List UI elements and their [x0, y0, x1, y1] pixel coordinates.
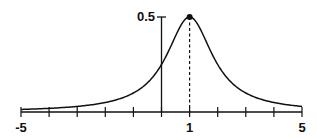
x-tick-label-5: 5 [298, 120, 305, 135]
chart: 0.5 -5 1 5 [0, 0, 317, 140]
peak-point [187, 14, 193, 20]
y-tick-label-0.5: 0.5 [137, 9, 155, 24]
x-tick-label-1: 1 [186, 120, 193, 135]
x-tick-label-neg5: -5 [15, 120, 27, 135]
